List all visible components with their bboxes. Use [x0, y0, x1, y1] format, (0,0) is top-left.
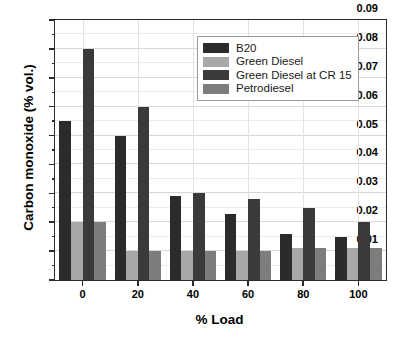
bar	[193, 193, 205, 280]
legend-label: Petrodiesel	[236, 83, 294, 94]
x-axis-tick-label: 0	[80, 288, 86, 300]
bar	[292, 248, 304, 280]
bar	[225, 214, 237, 280]
x-axis-tick-label: 60	[242, 288, 254, 300]
x-axis-tick	[82, 280, 84, 286]
legend-item: B20	[203, 42, 352, 55]
legend-swatch-icon	[203, 57, 229, 67]
bar	[315, 248, 327, 280]
bar	[83, 49, 95, 280]
bar	[358, 222, 370, 280]
x-axis-tick-label: 80	[297, 288, 309, 300]
x-axis-tick	[137, 280, 139, 286]
x-axis-tick-label: 40	[187, 288, 199, 300]
legend-swatch-icon	[203, 70, 229, 80]
bar	[115, 136, 127, 280]
legend-label: Green Diesel	[236, 56, 303, 67]
chart-legend: B20Green DieselGreen Diesel at CR 15Petr…	[197, 36, 359, 101]
bar	[303, 208, 315, 280]
legend-label: Green Diesel at CR 15	[236, 70, 352, 81]
bar	[94, 222, 106, 280]
legend-label: B20	[236, 43, 256, 54]
x-axis-tick	[247, 280, 249, 286]
x-axis-tick-label: 100	[349, 288, 367, 300]
x-axis-title: % Load	[52, 312, 387, 327]
bar	[335, 237, 347, 280]
bar	[260, 251, 272, 280]
bar	[280, 234, 292, 280]
bar	[59, 121, 71, 280]
bar	[181, 251, 193, 280]
bar	[126, 251, 138, 280]
bar	[347, 248, 359, 280]
legend-item: Petrodiesel	[203, 82, 352, 95]
bar	[205, 251, 217, 280]
bar	[149, 251, 161, 280]
bar	[370, 248, 382, 280]
legend-swatch-icon	[203, 43, 229, 53]
x-axis-tick-label: 20	[132, 288, 144, 300]
legend-item: Green Diesel at CR 15	[203, 69, 352, 82]
carbon-monoxide-bar-chart: Carbon monoxide (% vol.) 0.000.010.020.0…	[0, 0, 405, 338]
legend-item: Green Diesel	[203, 55, 352, 68]
bar	[138, 107, 150, 280]
y-axis-title: Carbon monoxide (% vol.)	[21, 18, 36, 278]
bar	[248, 199, 260, 280]
bar	[71, 222, 83, 280]
bar	[170, 196, 182, 280]
x-axis-tick	[358, 280, 360, 286]
x-axis-tick	[302, 280, 304, 286]
y-axis-tick-label: 0.09	[357, 2, 378, 14]
x-axis-tick	[192, 280, 194, 286]
bar	[236, 251, 248, 280]
legend-swatch-icon	[203, 84, 229, 94]
